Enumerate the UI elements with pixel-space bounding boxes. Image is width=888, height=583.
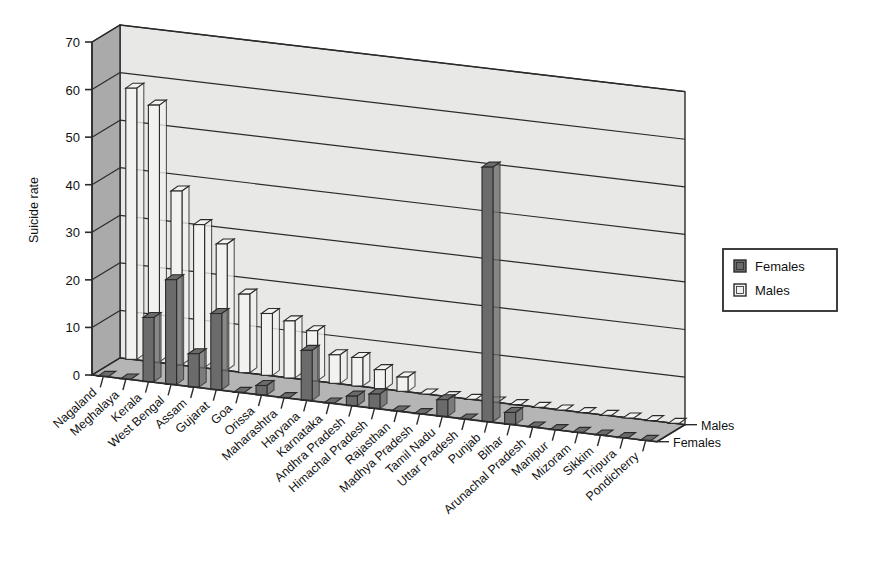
x-axis-tick [123,379,126,390]
bar-front-face [301,350,312,400]
bar-males-9 [329,350,347,384]
chart-canvas: 010203040506070Suicide rateNagalandMegha… [0,0,888,583]
bar-front-face [346,396,357,406]
bar-side-face [493,162,500,422]
bar-front-face [188,354,199,387]
bar-front-face [239,294,250,372]
legend: FemalesMales [723,249,837,311]
bar-females-3 [166,275,184,385]
x-axis-tick [213,390,216,401]
bar-males-6 [261,308,279,375]
y-axis-tick-label: 50 [66,130,80,145]
x-axis-tick [507,424,510,435]
y-axis-tick-label: 10 [66,320,80,335]
x-axis-tick [462,419,465,430]
bar-males-0 [126,83,144,359]
x-axis-tick [304,400,307,411]
bar-front-face [284,321,295,378]
legend-item-females: Females [734,259,805,274]
x-axis-tick [191,387,194,398]
bar-females-5 [211,309,229,390]
legend-label: Females [755,259,805,274]
x-axis-tick [598,435,601,446]
bar-side-face [199,349,206,387]
x-axis-tick [349,406,352,417]
bar-front-face [256,385,267,395]
bar-males-12 [397,372,415,391]
bar-front-face [505,412,516,424]
y-axis-tick-label: 20 [66,273,80,288]
bar-front-face [374,370,385,389]
bar-females-4 [188,349,206,387]
bar-side-face [250,289,257,372]
x-axis-tick [575,432,578,443]
y-axis-tick-label: 40 [66,178,80,193]
x-axis-tick [372,408,375,419]
x-axis-tick [146,382,149,393]
legend-swatch-inner [737,263,744,270]
legend-label: Males [755,283,790,298]
bar-side-face [222,309,229,390]
y-axis-title: Suicide rate [27,177,41,243]
bar-side-face [312,345,319,400]
bar-front-face [143,317,154,381]
bar-females-9 [301,345,319,400]
x-axis-tick [552,430,555,441]
x-axis-tick [643,440,646,451]
x-axis-tick [439,416,442,427]
bar-front-face [211,314,222,390]
y-axis-tick-label: 60 [66,83,80,98]
bar-females-18 [505,407,523,424]
x-axis-tick [281,398,284,409]
x-axis-tick [259,395,262,406]
bar-side-face [363,352,370,386]
bar-side-face [177,275,184,385]
y-axis-tick-label: 70 [66,35,80,50]
y-axis-tick-label: 0 [73,368,80,383]
bar-front-face [261,313,272,375]
bar-front-face [482,167,493,422]
x-axis-tick [326,403,329,414]
legend-item-males: Males [734,283,790,298]
bar-females-2 [143,312,161,381]
x-axis-tick [394,411,397,422]
x-axis-tick [485,422,488,433]
bar-front-face [437,400,448,417]
x-axis-tick [530,427,533,438]
bar-females-12 [369,389,387,408]
bar-front-face [397,377,408,391]
suicide-rate-3d-bar-chart: 010203040506070Suicide rateNagalandMegha… [0,0,888,583]
x-axis-tick [100,376,103,387]
bar-side-face [385,365,392,389]
x-axis-tick [236,392,239,403]
bar-front-face [329,355,340,384]
y-axis-tick-label: 30 [66,225,80,240]
bar-females-17 [482,162,500,422]
bar-females-15 [437,395,455,417]
bar-front-face [369,394,380,408]
x-axis-tick [168,384,171,395]
left-side-wall [92,25,120,375]
bar-front-face [166,280,177,385]
bar-front-face [194,225,205,368]
z-axis-label-males: Males [701,419,734,433]
bar-males-10 [352,352,370,386]
bar-males-5 [239,289,257,372]
x-axis-tick [417,414,420,425]
y-axis: 010203040506070Suicide rate [27,35,92,383]
bar-side-face [272,308,279,375]
bar-front-face [352,357,363,386]
bar-side-face [154,312,161,381]
x-axis-tick [620,438,623,449]
bar-side-face [340,350,347,384]
bar-front-face [126,88,137,359]
bar-males-7 [284,316,302,378]
z-axis-label-females: Females [673,436,721,450]
legend-swatch-inner [737,287,744,294]
bar-males-3 [194,220,212,368]
bar-males-11 [374,365,392,389]
